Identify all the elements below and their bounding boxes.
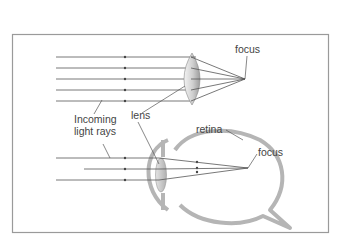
diagram-frame <box>13 35 329 233</box>
lens-label: lens <box>131 109 150 121</box>
eye-lens <box>156 158 167 192</box>
retina-label: retina <box>196 123 222 135</box>
focus-label-top: focus <box>235 43 260 55</box>
diagram-canvas: focus <box>0 0 350 243</box>
focus-label-eye: focus <box>258 146 283 158</box>
incoming-label-line2: light rays <box>74 125 116 137</box>
incoming-label-line1: Incoming <box>74 113 117 125</box>
